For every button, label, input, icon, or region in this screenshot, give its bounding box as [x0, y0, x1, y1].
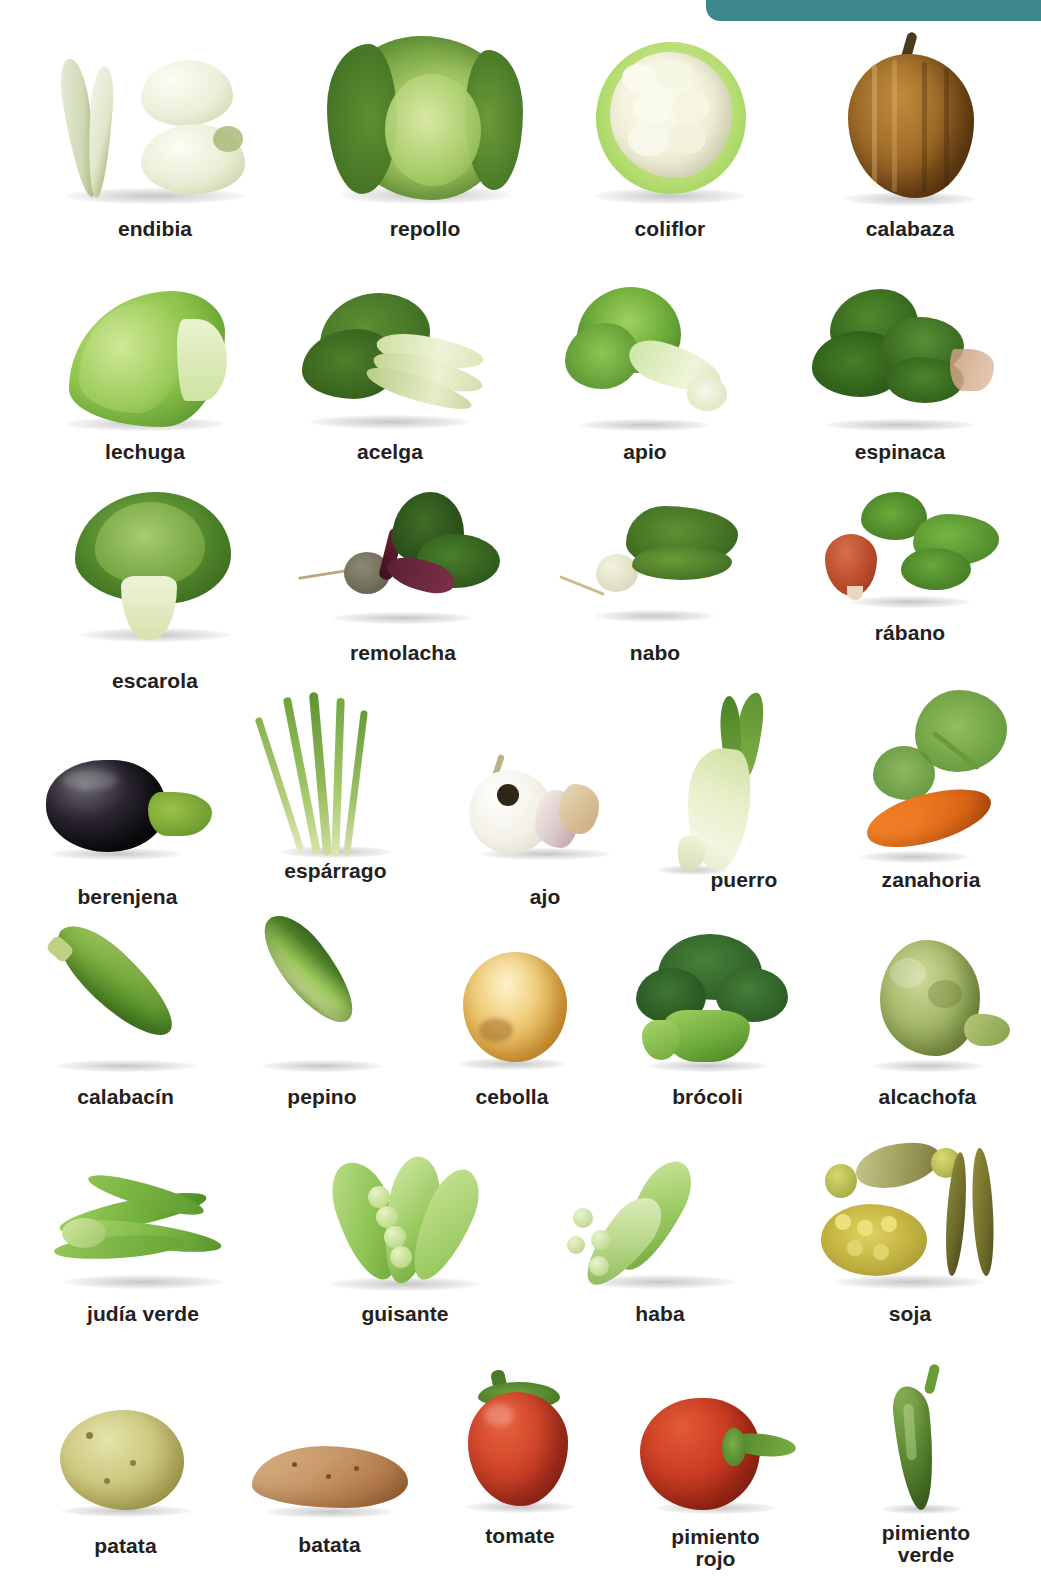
onion-photo: [417, 930, 607, 1080]
item-pepino[interactable]: pepino: [222, 930, 422, 1108]
item-espinaca[interactable]: espinaca: [775, 285, 1025, 463]
item-label: guisante: [280, 1303, 530, 1325]
carrot-photo: [831, 690, 1031, 875]
artichoke-photo: [828, 930, 1028, 1080]
item-label: ajo: [450, 886, 640, 908]
item-label: berenjena: [20, 886, 235, 908]
item-zanahoria[interactable]: zanahoria: [826, 690, 1036, 891]
endive-photo: [45, 30, 265, 210]
item-label: judía verde: [18, 1303, 268, 1325]
item-label: remolacha: [278, 642, 528, 664]
item-label: calabacín: [18, 1086, 233, 1108]
item-acelga[interactable]: acelga: [265, 285, 515, 463]
item-label: alcachofa: [820, 1086, 1035, 1108]
item-label: repollo: [300, 218, 550, 240]
item-rabano[interactable]: rábano: [785, 488, 1035, 644]
cabbage-photo: [315, 30, 535, 210]
item-calabacin[interactable]: calabacín: [18, 930, 233, 1108]
item-label: calabaza: [790, 218, 1030, 240]
item-label: endibia: [30, 218, 280, 240]
teal-corner-tab: [706, 0, 1041, 21]
item-haba[interactable]: haba: [535, 1150, 785, 1325]
potato-photo: [26, 1402, 226, 1517]
item-label: espárrago: [228, 860, 443, 882]
broccoli-photo: [608, 930, 808, 1080]
item-label: lechuga: [20, 441, 270, 463]
item-cebolla[interactable]: cebolla: [412, 930, 612, 1108]
item-remolacha[interactable]: remolacha: [278, 488, 528, 664]
broad-bean-photo: [545, 1150, 775, 1295]
item-label: nabo: [530, 642, 780, 664]
tomato-photo: [430, 1370, 610, 1515]
item-label: rábano: [785, 622, 1035, 644]
item-berenjena[interactable]: berenjena: [20, 750, 235, 908]
item-nabo[interactable]: nabo: [530, 488, 780, 664]
beet-photo: [288, 488, 518, 628]
item-pimiento-verde[interactable]: pimiento verde: [826, 1360, 1026, 1567]
soybean-photo: [795, 1140, 1025, 1295]
item-label: patata: [18, 1535, 233, 1557]
row-7: patata batata tomate: [0, 1360, 1041, 1589]
chard-photo: [280, 285, 500, 435]
item-puerro[interactable]: puerro: [620, 690, 830, 891]
sweet-potato-photo: [230, 1426, 430, 1518]
item-label: pimiento rojo: [608, 1526, 823, 1571]
item-label: acelga: [265, 441, 515, 463]
row-2: lechuga acelga apio: [0, 285, 1041, 475]
item-label: brócoli: [600, 1086, 815, 1108]
leek-photo: [625, 690, 825, 875]
asparagus-photo: [236, 690, 436, 860]
item-label: escarola: [30, 670, 280, 692]
item-label: pimiento verde: [826, 1522, 1026, 1567]
green-pepper-photo: [831, 1360, 1021, 1520]
garlic-photo: [453, 750, 638, 860]
item-repollo[interactable]: repollo: [300, 30, 550, 240]
turnip-photo: [540, 488, 770, 628]
row-4: berenjena espárrago ajo: [0, 690, 1041, 895]
item-guisante[interactable]: guisante: [280, 1150, 530, 1325]
pumpkin-photo: [800, 30, 1020, 210]
item-apio[interactable]: apio: [520, 285, 770, 463]
item-lechuga[interactable]: lechuga: [20, 285, 270, 463]
item-label: pepino: [222, 1086, 422, 1108]
item-alcachofa[interactable]: alcachofa: [820, 930, 1035, 1108]
row-3: escarola remolacha nabo: [0, 488, 1041, 688]
eggplant-photo: [28, 750, 228, 860]
item-label: batata: [222, 1534, 437, 1556]
spinach-photo: [790, 285, 1010, 435]
item-escarola[interactable]: escarola: [30, 488, 280, 692]
item-label: cebolla: [412, 1086, 612, 1108]
item-label: coliflor: [545, 218, 795, 240]
pea-photo: [290, 1150, 520, 1295]
vegetables-vocabulary-page: endibia repollo: [0, 0, 1041, 1589]
escarole-photo: [45, 488, 265, 648]
celery-photo: [535, 285, 755, 435]
row-5: calabacín pepino cebolla: [0, 930, 1041, 1125]
row-6: judía verde guisante: [0, 1150, 1041, 1350]
item-patata[interactable]: patata: [18, 1402, 233, 1557]
item-ajo[interactable]: ajo: [450, 750, 640, 908]
item-label: tomate: [425, 1525, 615, 1547]
item-esparrago[interactable]: espárrago: [228, 690, 443, 882]
item-label: haba: [535, 1303, 785, 1325]
red-pepper-photo: [616, 1388, 816, 1518]
item-label: soja: [790, 1303, 1030, 1325]
item-endibia[interactable]: endibia: [30, 30, 280, 240]
item-brocoli[interactable]: brócoli: [600, 930, 815, 1108]
radish-photo: [795, 488, 1025, 618]
item-pimiento-rojo[interactable]: pimiento rojo: [608, 1388, 823, 1571]
cauliflower-photo: [560, 30, 780, 210]
item-label: apio: [520, 441, 770, 463]
item-judia-verde[interactable]: judía verde: [18, 1150, 268, 1325]
lettuce-photo: [35, 285, 255, 435]
item-label: espinaca: [775, 441, 1025, 463]
row-1: endibia repollo: [0, 30, 1041, 280]
item-soja[interactable]: soja: [790, 1140, 1030, 1325]
item-coliflor[interactable]: coliflor: [545, 30, 795, 240]
cucumber-photo: [227, 930, 417, 1080]
green-bean-photo: [28, 1150, 258, 1295]
item-calabaza[interactable]: calabaza: [790, 30, 1030, 240]
zucchini-photo: [26, 930, 226, 1080]
item-batata[interactable]: batata: [222, 1426, 437, 1556]
item-tomate[interactable]: tomate: [425, 1370, 615, 1547]
